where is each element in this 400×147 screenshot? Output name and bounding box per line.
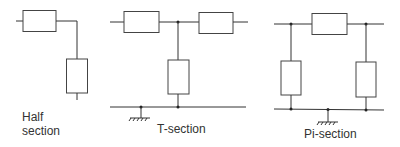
half-section-circuit [16, 11, 88, 101]
pi-section-label: Pi-section [304, 127, 357, 141]
series-impedance-right [199, 13, 233, 34]
shunt-impedance-right [356, 62, 376, 97]
ground-icon [129, 118, 150, 121]
t-section-circuit [110, 12, 248, 122]
pi-section-circuit [274, 14, 384, 126]
series-impedance [312, 14, 347, 35]
ground-icon [317, 122, 338, 125]
half-section-label: Half section [22, 110, 60, 138]
series-impedance [23, 11, 56, 32]
series-impedance-left [124, 12, 159, 33]
half-section-label-line1: Half [22, 110, 60, 124]
shunt-impedance-left [281, 61, 301, 95]
shunt-impedance [168, 60, 189, 94]
t-section-label: T-section [157, 122, 206, 136]
half-section-label-line2: section [22, 124, 60, 138]
shunt-impedance [67, 59, 88, 93]
